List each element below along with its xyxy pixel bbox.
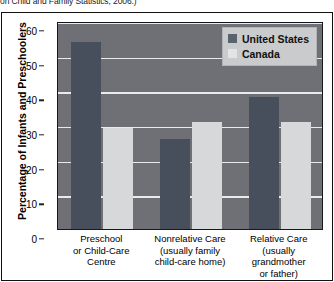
y-axis-tick-mark <box>39 65 44 66</box>
y-axis-tick-label: 20 <box>26 164 37 175</box>
plot-area: United States Canada <box>57 22 323 230</box>
bar-canada-group-3 <box>281 122 311 229</box>
y-axis-tick-label: 60 <box>26 26 37 37</box>
y-axis-tick-mark <box>39 100 44 101</box>
x-axis-label-line: Nonrelative Care <box>148 233 233 245</box>
x-axis-label-line: or Child-Care <box>59 245 144 257</box>
legend-swatch-united-states-icon <box>228 34 237 43</box>
y-axis-tick-mark <box>39 204 44 205</box>
y-axis-ticks: 6050403020100 <box>2 22 57 230</box>
y-axis-tick-mark <box>39 134 44 135</box>
x-axis-label-line: or father) <box>236 268 321 280</box>
bar-united-states-group-2 <box>160 139 190 229</box>
legend-swatch-canada-icon <box>228 49 237 58</box>
bar-canada-group-2 <box>192 122 222 229</box>
x-axis-label-3: Relative Care(usuallygrandmotheror fathe… <box>234 233 323 282</box>
legend: United States Canada <box>222 27 317 66</box>
y-axis-tick-label: 0 <box>31 234 37 245</box>
legend-label-canada: Canada <box>242 48 280 60</box>
bar-canada-group-1 <box>103 128 133 229</box>
x-axis-label-line: (usually <box>236 245 321 257</box>
legend-label-united-states: United States <box>242 33 309 45</box>
figure-caption-partial: on Child and Family Statistics, 2006.) <box>0 0 334 8</box>
x-axis-label-line: child-care home) <box>148 256 233 268</box>
y-axis-tick-label: 50 <box>26 60 37 71</box>
y-axis-tick-mark <box>39 30 44 31</box>
x-axis-label-1: Preschoolor Child-CareCentre <box>57 233 146 282</box>
x-axis-label-line: Centre <box>59 256 144 268</box>
y-axis-tick-mark <box>39 169 44 170</box>
x-axis-label-line: grandmother <box>236 256 321 268</box>
gridline <box>58 23 322 24</box>
x-axis-label-line: Relative Care <box>236 233 321 245</box>
bar-united-states-group-1 <box>71 42 101 229</box>
y-axis-tick-label: 10 <box>26 199 37 210</box>
x-axis-label-2: Nonrelative Care(usually familychild-car… <box>146 233 235 282</box>
figure-frame: Percentage of Infants and Preschoolers 6… <box>1 12 333 281</box>
x-axis-label-line: (usually family <box>148 245 233 257</box>
x-axis-label-line: Preschool <box>59 233 144 245</box>
legend-item-united-states: United States <box>228 31 309 46</box>
y-axis-tick-label: 40 <box>26 95 37 106</box>
x-axis-category-labels: Preschoolor Child-CareCentreNonrelative … <box>57 233 323 282</box>
legend-item-canada: Canada <box>228 46 309 61</box>
bar-united-states-group-3 <box>249 97 279 229</box>
y-axis-tick-mark <box>39 238 44 239</box>
figure-bar-chart: on Child and Family Statistics, 2006.) P… <box>0 0 334 282</box>
y-axis-tick-label: 30 <box>26 130 37 141</box>
